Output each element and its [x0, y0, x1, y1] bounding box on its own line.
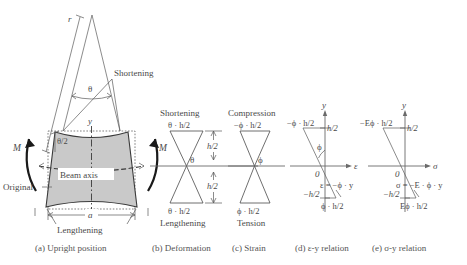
panel-d-angle-label: ϕ	[317, 142, 322, 152]
beam-bending-figure: r θ Shortening y θ/2	[0, 0, 467, 265]
panel-c-bottom-title: Tension	[237, 218, 266, 228]
panel-d-x-label: ε	[354, 161, 358, 171]
panel-d-equation: ε = −ϕ · y	[320, 180, 354, 190]
original-label: Original	[3, 182, 33, 192]
theta-label: θ	[88, 84, 92, 94]
panel-c-lower-triangle	[240, 166, 270, 203]
panel-a-caption: (a) Upright position	[35, 243, 107, 253]
panel-d-caption: (d) ε-y relation	[295, 243, 349, 253]
panel-b-bottom-title: Lengthening	[160, 218, 206, 228]
radius-label: r	[68, 14, 72, 24]
figure-container: r θ Shortening y θ/2	[0, 0, 467, 265]
panel-e-equation: σ = −E · ϕ · y	[396, 180, 443, 190]
panel-c-angle-label: ϕ	[258, 155, 263, 165]
panel-b-h-top-label: h/2	[207, 141, 219, 151]
width-label: a	[88, 210, 93, 220]
panel-e-stress-y-relation: y σ 0 −Eϕ · h/2 h/2 −h/2 Eϕ · h/2 σ = −E…	[360, 100, 443, 253]
panel-b-top-title: Shortening	[160, 108, 200, 118]
panel-e-x-label: σ	[433, 161, 438, 171]
panel-d-origin-label: 0	[315, 169, 320, 179]
panel-e-bottom-tick-label: −h/2	[383, 189, 400, 199]
panel-b-bottom-value: θ · h/2	[168, 206, 190, 216]
panel-e-bottom-value: Eϕ · h/2	[400, 201, 428, 211]
panel-b-lower-triangle	[170, 166, 203, 203]
panel-b-upper-triangle	[170, 131, 203, 166]
panel-d-top-left-value: −ϕ · h/2	[287, 118, 314, 128]
beam-axis-label: Beam axis	[60, 170, 98, 180]
panel-c-bottom-value: ϕ · h/2	[237, 206, 259, 216]
panel-b-caption: (b) Deformation	[152, 243, 211, 253]
panel-e-y-arrowhead	[403, 110, 407, 116]
moment-right-arrowhead	[149, 139, 159, 148]
panel-d-top-tick-label: h/2	[327, 123, 339, 133]
panel-b-h-bottom-label: h/2	[207, 181, 219, 191]
moment-left-label: M	[12, 143, 22, 153]
panel-d-x-arrowhead	[346, 164, 352, 168]
shortening-label: Shortening	[114, 68, 154, 78]
panel-c-strain: Compression −ϕ · h/2 ϕ ϕ · h/2 Tension (…	[228, 108, 285, 253]
radius-lines	[42, 15, 120, 153]
panel-d-y-arrowhead	[323, 110, 327, 116]
panel-e-caption: (e) σ-y relation	[372, 243, 427, 253]
panel-b-top-value: θ · h/2	[168, 120, 190, 130]
panel-e-origin-label: 0	[395, 169, 400, 179]
panel-d-bottom-tick-label: −h/2	[303, 189, 320, 199]
panel-e-y-label: y	[401, 100, 406, 110]
panel-d-bottom-value: ϕ · h/2	[321, 201, 343, 211]
panel-d-y-label: y	[321, 100, 326, 110]
beam-axis-arrow-right	[139, 163, 144, 169]
panel-c-top-value: −ϕ · h/2	[234, 120, 261, 130]
panel-a-upright-position: r θ Shortening y θ/2	[3, 14, 168, 253]
panel-d-strain-y-relation: y ε 0 −ϕ · h/2 h/2 −h/2 ϕ · h/2 ϕ ε = −ϕ…	[287, 100, 358, 253]
moment-left-arrowhead	[25, 139, 35, 148]
panel-c-caption: (c) Strain	[232, 243, 266, 253]
panel-a-y-label: y	[87, 116, 92, 126]
panel-e-top-tick-label: h/2	[407, 123, 419, 133]
panel-e-x-arrowhead	[425, 164, 431, 168]
moment-arrow-right	[148, 139, 159, 191]
moment-right-label: M	[158, 143, 168, 153]
panel-b-angle-label: θ	[190, 155, 194, 165]
panel-e-top-left-value: −Eϕ · h/2	[360, 118, 392, 128]
panel-c-top-title: Compression	[228, 108, 276, 118]
panel-d-equation-leader	[336, 190, 341, 197]
lengthening-label: Lengthening	[57, 225, 103, 235]
panel-c-upper-triangle	[240, 131, 270, 166]
half-theta-label: θ/2	[57, 136, 68, 146]
